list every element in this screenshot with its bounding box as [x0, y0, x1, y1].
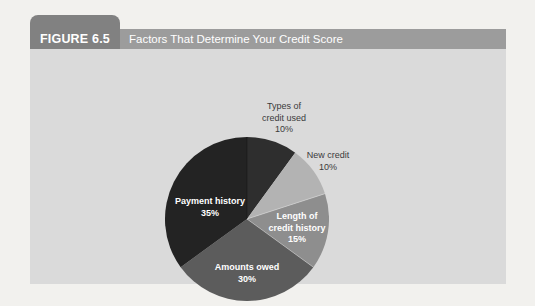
slice-label-line: credit history — [268, 223, 325, 235]
slice-label-payment-history: Payment history35% — [175, 196, 245, 219]
figure-number-label: FIGURE 6.5 — [40, 32, 110, 46]
figure-title-bar: Factors That Determine Your Credit Score — [120, 29, 506, 49]
slice-label-line: 15% — [268, 234, 325, 246]
slice-label-line: 10% — [262, 124, 306, 136]
slice-label-amounts-owed: Amounts owed30% — [215, 262, 280, 285]
slice-label-new-credit: New credit10% — [307, 150, 350, 173]
figure-number-section: FIGURE 6.5 — [30, 29, 120, 49]
slice-label-line: Length of — [268, 211, 325, 223]
figure-panel: FIGURE 6.5 Factors That Determine Your C… — [30, 15, 506, 284]
slice-label-line: Payment history — [175, 196, 245, 208]
slice-label-line: 35% — [175, 208, 245, 220]
figure-title: Factors That Determine Your Credit Score — [129, 33, 343, 45]
slice-label-line: Types of — [262, 101, 306, 113]
slice-label-line: New credit — [307, 150, 350, 162]
slice-label-length-of-credit-history: Length ofcredit history15% — [268, 211, 325, 246]
figure-header-bar: FIGURE 6.5 Factors That Determine Your C… — [30, 29, 506, 49]
slice-label-line: 30% — [215, 274, 280, 286]
slice-label-line: 10% — [307, 162, 350, 174]
slice-label-line: Amounts owed — [215, 262, 280, 274]
slice-label-types-of-credit-used: Types ofcredit used10% — [262, 101, 306, 136]
slice-label-line: credit used — [262, 113, 306, 125]
figure-body: Types ofcredit used10%New credit10%Lengt… — [30, 49, 506, 284]
